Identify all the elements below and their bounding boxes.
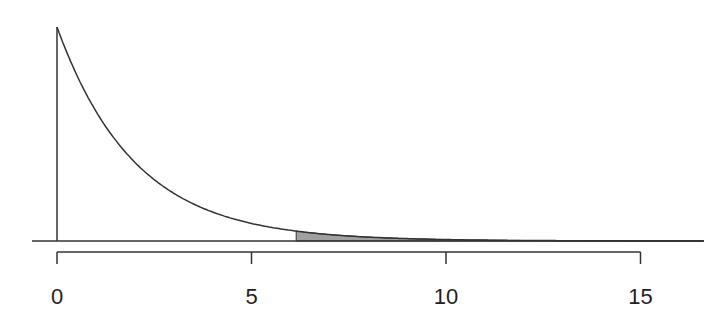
exponential-density-chart: 051015 xyxy=(0,0,726,321)
x-tick-label: 15 xyxy=(628,284,652,309)
density-curve xyxy=(57,27,703,241)
x-tick-label: 10 xyxy=(434,284,458,309)
x-tick-label: 5 xyxy=(245,284,257,309)
x-axis: 051015 xyxy=(51,252,653,309)
x-tick-label: 0 xyxy=(51,284,63,309)
